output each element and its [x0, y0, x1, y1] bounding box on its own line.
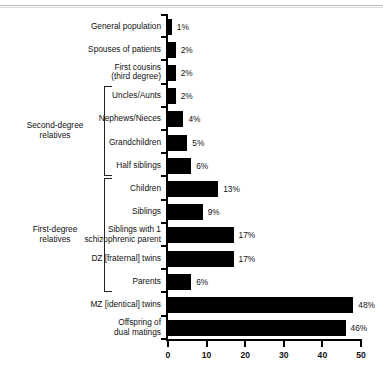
- bar-row: MZ [identical] twins48%: [0, 293, 383, 316]
- category-axis-tick: [161, 14, 167, 16]
- bar-row: Uncles/Aunts2%: [0, 85, 383, 108]
- bar-container: 1%: [168, 19, 189, 35]
- category-label: First cousins (third degree): [11, 63, 166, 82]
- bar-value-label: 1%: [177, 22, 189, 32]
- bar: [168, 42, 176, 58]
- bar-container: 9%: [168, 204, 220, 220]
- category-axis-tick: [161, 338, 167, 340]
- group-label: Second-degree relatives: [8, 121, 102, 141]
- value-axis-tick: [167, 341, 169, 347]
- bar-container: 17%: [168, 251, 255, 267]
- value-axis-tick-label: 20: [240, 350, 250, 360]
- bar: [168, 320, 346, 336]
- bar: [168, 88, 176, 104]
- bar-value-label: 9%: [208, 207, 220, 217]
- group-label: First-degree relatives: [8, 225, 102, 245]
- category-label: Uncles/Aunts: [11, 91, 166, 101]
- bar-value-label: 2%: [181, 91, 193, 101]
- bar-container: 5%: [168, 135, 204, 151]
- value-axis-tick: [321, 341, 323, 347]
- value-axis-tick: [206, 341, 208, 347]
- bar-row: Half siblings6%: [0, 154, 383, 177]
- value-axis-tick-label: 0: [166, 350, 171, 360]
- bar-value-label: 46%: [351, 323, 368, 333]
- group-bracket: [104, 86, 112, 177]
- bar: [168, 158, 191, 174]
- bar-container: 48%: [168, 297, 375, 313]
- bar-value-label: 17%: [239, 254, 256, 264]
- bar-container: 2%: [168, 88, 193, 104]
- value-axis-tick-label: 50: [356, 350, 366, 360]
- bar: [168, 135, 187, 151]
- bar-container: 17%: [168, 227, 255, 243]
- category-label: Siblings: [11, 207, 166, 217]
- bar-chart-plot-area: General population1%Spouses of patients2…: [0, 0, 383, 371]
- bar-container: 13%: [168, 181, 240, 197]
- bar-container: 2%: [168, 65, 193, 81]
- bar: [168, 65, 176, 81]
- group-bracket: [104, 178, 112, 292]
- bar-value-label: 2%: [181, 68, 193, 78]
- bar-container: 2%: [168, 42, 193, 58]
- category-label: Half siblings: [11, 161, 166, 171]
- bar-container: 6%: [168, 274, 208, 290]
- value-axis-tick-label: 40: [318, 350, 328, 360]
- bar: [168, 204, 203, 220]
- bar-row: Offspring of dual matings46%: [0, 317, 383, 340]
- value-axis-tick-label: 30: [279, 350, 289, 360]
- category-label: Offspring of dual matings: [11, 319, 166, 338]
- bar: [168, 251, 234, 267]
- bar-container: 46%: [168, 320, 367, 336]
- bar-value-label: 48%: [358, 300, 375, 310]
- bar-value-label: 2%: [181, 45, 193, 55]
- bar-row: Parents6%: [0, 270, 383, 293]
- bar: [168, 227, 234, 243]
- category-label: MZ [identical] twins: [11, 300, 166, 310]
- bar-row: General population1%: [0, 15, 383, 38]
- value-axis-tick-label: 10: [202, 350, 212, 360]
- bar-container: 6%: [168, 158, 208, 174]
- category-label: Children: [11, 184, 166, 194]
- bar-row: DZ [fraternal] twins17%: [0, 247, 383, 270]
- value-axis-tick: [244, 341, 246, 347]
- bar: [168, 19, 172, 35]
- bar: [168, 274, 191, 290]
- bar-value-label: 4%: [188, 114, 200, 124]
- bar-value-label: 6%: [196, 277, 208, 287]
- value-axis-tick: [360, 341, 362, 347]
- bar: [168, 181, 218, 197]
- bar-row: Children13%: [0, 177, 383, 200]
- bar-row: Siblings9%: [0, 201, 383, 224]
- bar-value-label: 17%: [239, 230, 256, 240]
- bar-container: 4%: [168, 111, 200, 127]
- bar-value-label: 13%: [223, 184, 240, 194]
- bar-value-label: 5%: [192, 138, 204, 148]
- bar-value-label: 6%: [196, 161, 208, 171]
- category-label: DZ [fraternal] twins: [11, 254, 166, 264]
- bar-row: Spouses of patients2%: [0, 38, 383, 61]
- category-label: Parents: [11, 277, 166, 287]
- value-axis-tick: [283, 341, 285, 347]
- chart-page: General population1%Spouses of patients2…: [0, 0, 383, 371]
- bar: [168, 297, 353, 313]
- bar: [168, 111, 183, 127]
- category-label: General population: [11, 22, 166, 32]
- bar-row: First cousins (third degree)2%: [0, 61, 383, 84]
- category-label: Spouses of patients: [11, 45, 166, 55]
